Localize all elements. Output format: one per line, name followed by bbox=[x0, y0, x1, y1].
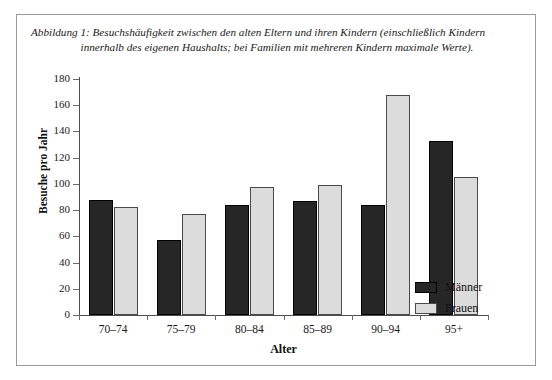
y-tick-label: 60 bbox=[22, 229, 70, 241]
bar-frauen-90–94 bbox=[386, 95, 410, 315]
category-label: 75–79 bbox=[147, 323, 215, 335]
legend-item-frauen: Frauen bbox=[415, 298, 482, 319]
bar-männer-85–89 bbox=[293, 201, 317, 315]
bar-männer-70–74 bbox=[89, 200, 113, 315]
y-axis-line bbox=[79, 77, 80, 316]
bar-frauen-85–89 bbox=[318, 185, 342, 315]
y-tick-label: 40 bbox=[22, 256, 70, 268]
category-label: 95+ bbox=[420, 323, 488, 335]
x-tick-mark bbox=[147, 315, 148, 320]
x-tick-mark bbox=[215, 315, 216, 320]
x-tick-mark bbox=[79, 315, 80, 320]
bar-frauen-75–79 bbox=[182, 214, 206, 315]
legend-label: Männer bbox=[445, 280, 482, 295]
bar-männer-80–84 bbox=[225, 205, 249, 315]
category-label: 90–94 bbox=[352, 323, 420, 335]
y-tick-mark bbox=[73, 184, 79, 185]
y-tick-mark bbox=[73, 79, 79, 80]
legend-label: Frauen bbox=[445, 301, 478, 316]
y-tick-label: 0 bbox=[22, 308, 70, 320]
category-label: 85–89 bbox=[284, 323, 352, 335]
y-tick-label: 20 bbox=[22, 282, 70, 294]
bar-frauen-80–84 bbox=[250, 187, 274, 315]
x-axis-title: Alter bbox=[79, 342, 488, 357]
x-tick-mark bbox=[488, 315, 489, 320]
legend-swatch-icon bbox=[415, 282, 437, 293]
figure-frame: Abbildung 1: Besuchshäufigkeit zwischen … bbox=[16, 14, 536, 366]
bar-frauen-70–74 bbox=[114, 207, 138, 315]
x-tick-mark bbox=[284, 315, 285, 320]
legend-item-männer: Männer bbox=[415, 277, 482, 298]
legend-swatch-icon bbox=[415, 303, 437, 314]
chart-legend: MännerFrauen bbox=[415, 277, 482, 319]
y-tick-mark bbox=[73, 236, 79, 237]
y-tick-mark bbox=[73, 131, 79, 132]
bar-männer-75–79 bbox=[157, 240, 181, 315]
y-tick-mark bbox=[73, 263, 79, 264]
y-tick-mark bbox=[73, 210, 79, 211]
y-axis-title: Besuche pro Jahr bbox=[37, 111, 49, 231]
y-tick-mark bbox=[73, 158, 79, 159]
y-tick-mark bbox=[73, 105, 79, 106]
bar-männer-90–94 bbox=[361, 205, 385, 315]
category-label: 70–74 bbox=[79, 323, 147, 335]
y-tick-mark bbox=[73, 289, 79, 290]
x-tick-mark bbox=[352, 315, 353, 320]
y-tick-label: 160 bbox=[22, 98, 70, 110]
category-label: 80–84 bbox=[215, 323, 283, 335]
bar-chart-plot: 020406080100120140160180 70–7475–7980–84… bbox=[17, 15, 537, 367]
y-tick-label: 180 bbox=[22, 72, 70, 84]
